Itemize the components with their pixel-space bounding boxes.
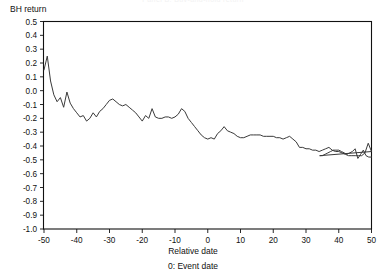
y-tick-label: 0.4: [26, 31, 38, 40]
x-tick-label: 0: [205, 236, 210, 245]
x-tick-label: -40: [71, 236, 83, 245]
y-tick-label: 0.0: [26, 87, 38, 96]
y-tick-label: -0.7: [23, 184, 38, 193]
y-tick-label: -0.4: [23, 142, 38, 151]
y-tick-label: -0.8: [23, 197, 38, 206]
x-axis-ticks: -50-40-30-20-1001020304050: [38, 229, 376, 245]
plot-frame: [44, 22, 372, 230]
y-axis-ticks: 0.50.40.30.20.10.0-0.1-0.2-0.3-0.4-0.5-0…: [23, 18, 44, 235]
y-tick-label: 0.1: [26, 73, 38, 82]
figure-caption: 0: Event date: [0, 261, 386, 271]
x-tick-label: -30: [104, 236, 116, 245]
figure-container: Panel B: Buy-and-hold return BH return 0…: [0, 0, 386, 278]
y-tick-label: -0.6: [23, 170, 38, 179]
y-tick-label: -1.0: [23, 225, 38, 234]
x-tick-label: 20: [269, 236, 279, 245]
y-tick-label: 0.5: [26, 18, 38, 27]
y-tick-label: -0.1: [23, 101, 38, 110]
y-tick-label: 0.2: [26, 59, 38, 68]
x-tick-label: -50: [38, 236, 50, 245]
x-tick-label: 30: [301, 236, 311, 245]
chart-canvas: 0.50.40.30.20.10.0-0.1-0.2-0.3-0.4-0.5-0…: [0, 0, 386, 278]
x-axis-label: Relative date: [0, 246, 386, 256]
y-tick-label: -0.3: [23, 128, 38, 137]
x-tick-label: -20: [136, 236, 148, 245]
x-tick-label: 10: [236, 236, 246, 245]
y-tick-label: -0.9: [23, 211, 38, 220]
x-tick-label: 50: [367, 236, 377, 245]
y-tick-label: 0.3: [26, 45, 38, 54]
y-tick-label: -0.2: [23, 114, 38, 123]
x-tick-label: 40: [334, 236, 344, 245]
y-tick-label: -0.5: [23, 156, 38, 165]
x-tick-label: -10: [169, 236, 181, 245]
